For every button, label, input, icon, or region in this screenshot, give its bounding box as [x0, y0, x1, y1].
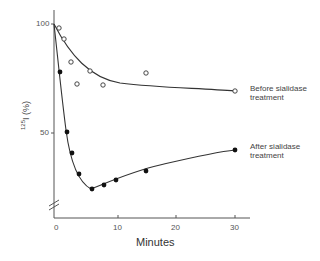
legend-before: Before sialidase treatment	[250, 84, 307, 102]
x-tick-20: 20	[171, 223, 180, 232]
y-tick-100: 100	[36, 19, 49, 28]
x-axis-label: Minutes	[136, 236, 175, 248]
legend-before-line2: treatment	[250, 93, 307, 102]
legend-after-line1: After sialidase	[250, 142, 300, 151]
after-points	[58, 70, 238, 192]
x-tick-30: 30	[230, 223, 239, 232]
x-tick-0: 0	[54, 223, 58, 232]
legend-after: After sialidase treatment	[250, 142, 300, 160]
x-tick-10: 10	[113, 223, 122, 232]
before-points	[57, 26, 237, 93]
legend-before-line1: Before sialidase	[250, 84, 307, 93]
legend-after-line2: treatment	[250, 151, 300, 160]
y-tick-50: 50	[40, 128, 49, 137]
y-axis-label-sup: 125	[20, 120, 26, 130]
y-axis-label-main: I (%)	[21, 101, 31, 120]
before-curve	[54, 24, 235, 91]
y-axis-label: 125I (%)	[20, 101, 31, 130]
after-curve	[54, 24, 235, 189]
